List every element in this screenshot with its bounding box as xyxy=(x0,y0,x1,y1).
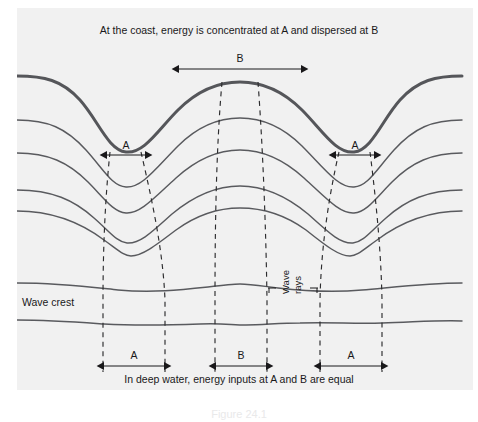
deep-dimension-B-center: B xyxy=(216,349,266,366)
deep-dimension-B-center-label: B xyxy=(237,349,244,361)
figure-root: At the coast, energy is concentrated at … xyxy=(0,0,478,422)
wave-crest-1 xyxy=(17,118,462,187)
wave-crest-2 xyxy=(17,150,462,213)
wave-ray-1 xyxy=(103,152,110,372)
coast-dimension-A-right-label: A xyxy=(351,139,358,151)
top-dimension-B-label: B xyxy=(236,52,243,64)
figure-caption: Figure 24.1 xyxy=(211,408,267,420)
wave-ray-2 xyxy=(141,152,165,372)
bottom-caption: In deep water, energy inputs at A and B … xyxy=(124,373,353,385)
wave-crest-3 xyxy=(17,186,462,243)
deep-dimension-A-left: A xyxy=(104,349,164,366)
wave-crest-6 xyxy=(17,320,462,325)
top-dimension-B: B xyxy=(179,52,301,69)
wave-rays-label-line2: rays xyxy=(292,276,303,294)
wave-crest-4 xyxy=(17,208,462,256)
deep-dimension-A-right-label: A xyxy=(347,349,354,361)
wave-crest-5 xyxy=(17,283,462,291)
top-caption: At the coast, energy is concentrated at … xyxy=(100,24,378,36)
coastline xyxy=(17,76,462,152)
deep-dimension-A-right: A xyxy=(321,349,381,366)
wave-crest-label: Wave crest xyxy=(22,296,74,308)
wave-refraction-diagram: At the coast, energy is concentrated at … xyxy=(0,0,478,422)
wave-ray-6 xyxy=(370,152,382,372)
coast-dimension-A-left-label: A xyxy=(122,139,129,151)
wave-ray-3 xyxy=(215,82,222,372)
wave-rays-label-line1: Wave xyxy=(280,270,291,294)
wave-ray-5 xyxy=(320,152,339,372)
wave-ray-4 xyxy=(258,82,267,372)
deep-dimension-A-left-label: A xyxy=(130,349,137,361)
